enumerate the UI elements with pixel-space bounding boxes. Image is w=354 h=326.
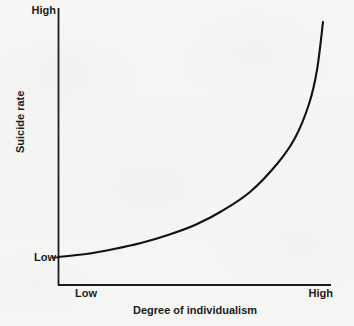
chart-plot-area bbox=[0, 0, 354, 326]
y-axis-tick-label-high: High bbox=[32, 4, 56, 16]
x-axis-title: Degree of individualism bbox=[0, 304, 354, 316]
y-axis-tick-label-low: Low bbox=[34, 251, 56, 263]
suicide-rate-vs-individualism-chart: High Low Low High Suicide rate Degree of… bbox=[0, 0, 354, 326]
suicide-rate-curve bbox=[58, 22, 323, 257]
x-axis-tick-label-high: High bbox=[309, 287, 333, 299]
x-axis-tick-label-low: Low bbox=[75, 287, 97, 299]
y-axis-title: Suicide rate bbox=[14, 113, 26, 153]
